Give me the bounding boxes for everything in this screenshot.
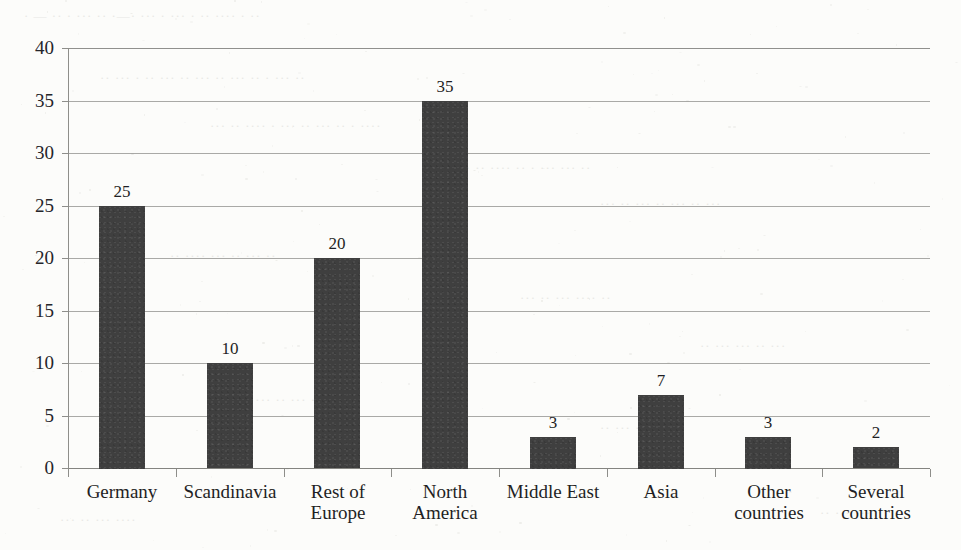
y-axis-label-25: 25 — [8, 196, 54, 215]
gridline-20 — [68, 258, 930, 259]
y-tick-30 — [62, 153, 69, 154]
y-axis-label-40: 40 — [8, 38, 54, 57]
bar-value-label: 2 — [836, 424, 916, 441]
gridline-25 — [68, 206, 930, 207]
category-label: Othercountries — [715, 481, 823, 524]
y-axis-label-0: 0 — [8, 458, 54, 477]
y-axis-label-5: 5 — [8, 406, 54, 425]
category-label: Germany — [68, 481, 176, 502]
category-label: Scandinavia — [176, 481, 284, 502]
x-tick-1 — [176, 469, 177, 477]
y-tick-15 — [62, 311, 69, 312]
y-tick-35 — [62, 101, 69, 102]
bar — [99, 206, 145, 469]
y-tick-10 — [62, 363, 69, 364]
gridline-40 — [68, 48, 930, 49]
y-axis-label-10: 10 — [8, 353, 54, 372]
y-axis-label-20: 20 — [8, 248, 54, 267]
x-tick-8 — [930, 469, 931, 477]
bar — [422, 101, 468, 469]
category-label: Asia — [607, 481, 715, 502]
y-tick-20 — [62, 258, 69, 259]
y-tick-5 — [62, 416, 69, 417]
x-tick-7 — [822, 469, 823, 477]
bar-value-label: 3 — [513, 414, 593, 431]
category-label: Rest ofEurope — [284, 481, 392, 524]
y-tick-25 — [62, 206, 69, 207]
x-tick-2 — [284, 469, 285, 477]
y-axis-label-15: 15 — [8, 301, 54, 320]
x-tick-6 — [715, 469, 716, 477]
y-tick-40 — [62, 48, 69, 49]
gridline-35 — [68, 101, 930, 102]
gridline-15 — [68, 311, 930, 312]
bar-chart: 0510152025303540 251020353732 GermanySca… — [0, 0, 961, 550]
bar-value-label: 25 — [82, 183, 162, 200]
bar-value-label: 7 — [621, 372, 701, 389]
scanned-page: · — ·· · ··· ·· ·—· ··· · ··· · ·· ···· … — [0, 0, 961, 550]
x-tick-3 — [391, 469, 392, 477]
bar — [853, 447, 899, 468]
bar — [745, 437, 791, 469]
bar-value-label: 35 — [405, 78, 485, 95]
bar — [314, 258, 360, 468]
bar — [207, 363, 253, 468]
category-label: Severalcountries — [822, 481, 930, 524]
bar — [638, 395, 684, 469]
bar-value-label: 10 — [190, 340, 270, 357]
gridline-10 — [68, 363, 930, 364]
bar — [530, 437, 576, 469]
y-axis-label-30: 30 — [8, 143, 54, 162]
bar-value-label: 3 — [728, 414, 808, 431]
gridline-30 — [68, 153, 930, 154]
x-tick-5 — [607, 469, 608, 477]
bar-value-label: 20 — [297, 235, 377, 252]
y-axis-label-35: 35 — [8, 91, 54, 110]
x-tick-4 — [499, 469, 500, 477]
x-tick-0 — [68, 469, 69, 477]
category-label: Middle East — [499, 481, 607, 502]
category-label: NorthAmerica — [391, 481, 499, 524]
